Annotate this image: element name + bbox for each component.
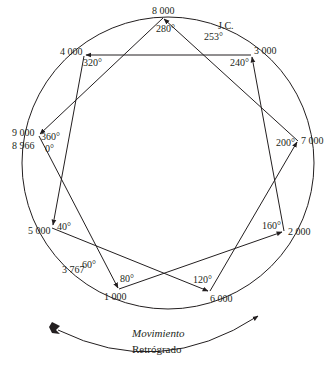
node-angle-2000: 160°: [262, 221, 281, 231]
jc-angle: 253°: [204, 32, 223, 42]
node-label-8000: 8 000: [152, 6, 175, 16]
node-label-8966: 8 966: [12, 141, 35, 151]
node-angle-3000: 240°: [230, 58, 249, 68]
edge-8000-9000: [40, 18, 163, 134]
node-angle-5000: 40°: [57, 222, 71, 232]
node-angle-1000: 80°: [120, 274, 134, 284]
node-angle-4000: 320°: [83, 58, 102, 68]
node-angle-360: 360°: [41, 132, 60, 142]
node-label-5000: 5 000: [28, 226, 51, 236]
jc-label: J.C.: [218, 21, 234, 31]
node-label-6000: 6 000: [210, 294, 233, 304]
edge-6000-7000: [210, 142, 297, 291]
node-angle-7000: 200°: [276, 138, 295, 148]
node-angle-6000: 120°: [193, 275, 212, 285]
node-angle-0: 0°: [45, 144, 54, 154]
caption-line-2: Retrógrado: [132, 344, 181, 355]
node-label-1000: 1 000: [104, 292, 127, 302]
diagram-canvas: [0, 0, 336, 367]
node-angle-8000: 280°: [156, 24, 175, 34]
node-label-2000: 2 000: [288, 227, 311, 237]
node-label-7000: 7 000: [301, 136, 324, 146]
edge-7000-8000: [164, 19, 298, 141]
node-label-9000: 9 000: [12, 128, 35, 138]
caption-line-1: Movimiento: [132, 328, 185, 339]
node-label-4000: 4 000: [60, 47, 83, 57]
point-3767-angle: 60°: [82, 260, 96, 270]
retrograde-arrow-tail-icon: [49, 322, 60, 334]
star-edges: [39, 18, 298, 291]
node-label-3000: 3 000: [254, 46, 277, 56]
